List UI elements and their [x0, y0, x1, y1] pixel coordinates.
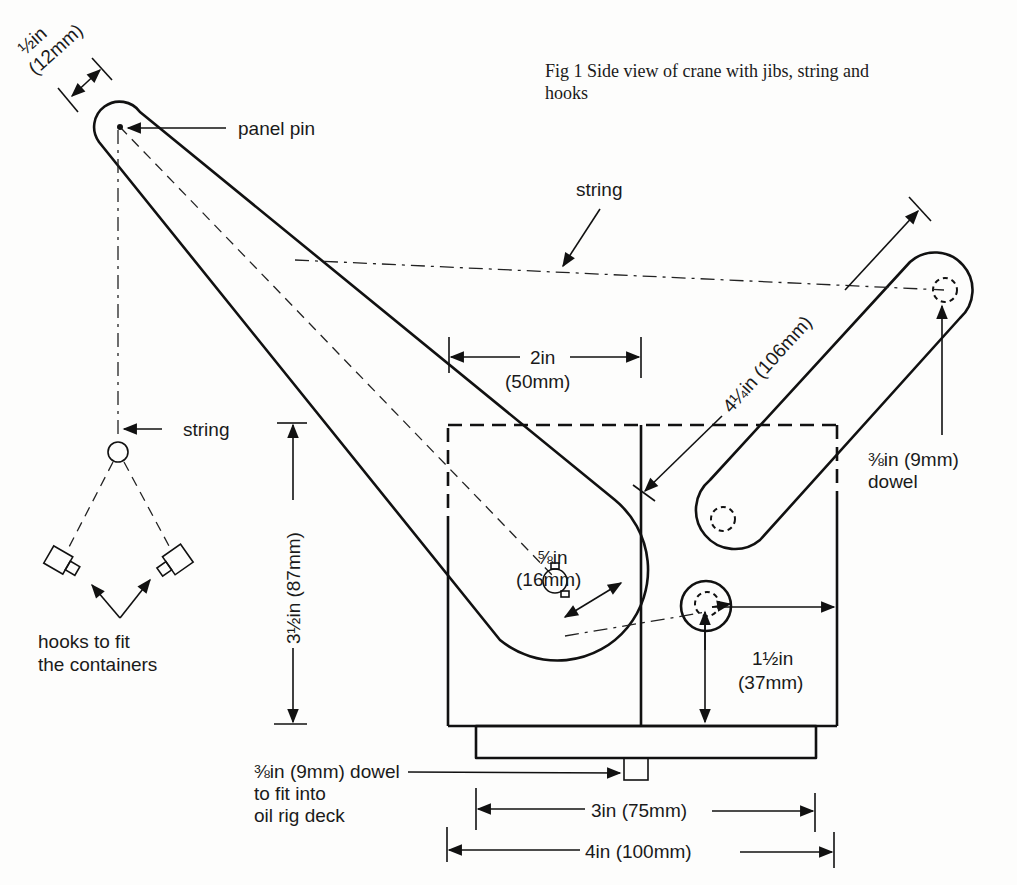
label-height-3-5in: 3½in (87mm)	[283, 532, 304, 644]
label-dim-4in: 4in (100mm)	[585, 841, 692, 862]
label-panel-pin: panel pin	[238, 118, 315, 139]
string-top-pointer	[563, 209, 600, 266]
panel-pin	[117, 124, 123, 130]
figure-caption-line1: Fig 1 Side view of crane with jibs, stri…	[545, 61, 869, 81]
label-hooks-line1: hooks to fit	[38, 631, 131, 652]
label-jib-length: 4¼in (106mm)	[718, 312, 816, 417]
label-dim-3in: 3in (75mm)	[591, 800, 687, 821]
label-hooks-line2: the containers	[38, 654, 157, 675]
lower-dowel	[711, 507, 735, 531]
figure-caption-line2: hooks	[545, 83, 588, 103]
base-dowel-pointer	[408, 772, 620, 773]
label-pivot-radius-in: ⅝in	[537, 547, 568, 568]
label-base-dowel-3: oil rig deck	[254, 805, 345, 826]
label-dowel-right-1: ⅜in (9mm)	[868, 449, 959, 470]
dim-jib-width	[58, 58, 112, 112]
label-base-dowel-2: to fit into	[254, 783, 326, 804]
string-top	[295, 260, 944, 290]
label-pivot-radius-mm: (16mm)	[516, 569, 581, 590]
winding-drum	[681, 581, 731, 631]
crane-diagram: ½in (12mm) Fig 1 Side view of crane with…	[0, 0, 1017, 885]
label-offset-in: 1½in	[752, 648, 793, 669]
label-dowel-right-2: dowel	[868, 471, 918, 492]
hook-assembly	[44, 442, 193, 618]
label-string-top: string	[576, 179, 622, 200]
label-2in: 2in	[530, 347, 555, 368]
hook-ring	[108, 442, 128, 462]
diagram-svg: ½in (12mm) Fig 1 Side view of crane with…	[0, 0, 1017, 885]
label-offset-mm: (37mm)	[738, 672, 803, 693]
label-50mm: (50mm)	[505, 371, 570, 392]
label-base-dowel-1: ⅜in (9mm) dowel	[254, 761, 400, 782]
base-dowel	[624, 758, 648, 780]
label-string-left: string	[183, 419, 229, 440]
